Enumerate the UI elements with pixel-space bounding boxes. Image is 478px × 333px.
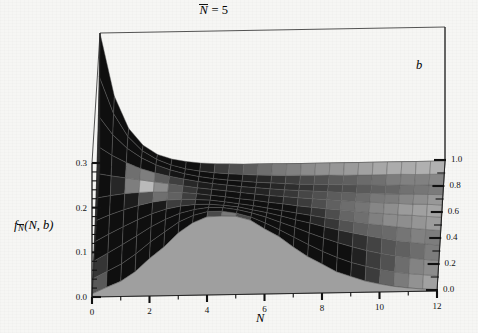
x-tick-label: 0 (90, 307, 95, 317)
y-tick-label: 1.0 (451, 154, 463, 164)
x-tick-label: 4 (205, 305, 210, 315)
x-tick-label: 12 (433, 301, 442, 311)
y-tick-label: 0.4 (446, 232, 458, 242)
x-tick-label: 2 (147, 306, 152, 316)
surface-plot: 0246810120.00.20.40.60.81.00.00.10.20.3 (0, 0, 478, 333)
z-tick-label: 0.0 (76, 292, 88, 302)
y-tick-label: 0.0 (443, 284, 455, 294)
y-tick-label: 0.6 (448, 206, 460, 216)
figure-canvas: 0246810120.00.20.40.60.81.00.00.10.20.3 … (0, 0, 478, 333)
x-tick-label: 10 (375, 302, 385, 312)
x-tick-label: 8 (320, 303, 325, 313)
y-tick-label: 0.8 (449, 180, 461, 190)
z-tick-label: 0.1 (76, 247, 87, 257)
z-tick-label: 0.2 (76, 203, 87, 213)
y-tick-label: 0.2 (445, 258, 456, 268)
x-tick-label: 6 (262, 304, 267, 314)
z-tick-label: 0.3 (76, 158, 88, 168)
